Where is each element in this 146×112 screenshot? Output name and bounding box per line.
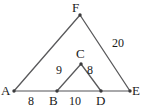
edge-F-E <box>80 15 130 91</box>
geometry-figure: A B C D E F 8 10 9 8 20 <box>0 0 146 112</box>
measure-label-BC: 9 <box>56 64 62 76</box>
vertex-marker-A <box>12 89 15 92</box>
vertex-markers <box>12 13 131 92</box>
edge-A-F <box>14 15 80 91</box>
outer-triangle-AFE <box>14 15 130 91</box>
measure-label-BD: 10 <box>69 95 81 107</box>
vertex-marker-C <box>79 62 82 65</box>
vertex-label-D: D <box>96 94 105 107</box>
vertex-label-F: F <box>72 1 79 14</box>
vertex-label-E: E <box>132 84 140 97</box>
vertex-label-B: B <box>49 94 58 107</box>
measure-label-CD: 8 <box>87 64 93 76</box>
measure-label-AB: 8 <box>28 95 34 107</box>
measure-label-FE: 20 <box>112 37 124 49</box>
vertex-label-C: C <box>76 47 85 60</box>
vertex-label-A: A <box>1 84 10 97</box>
inner-triangle-BCD <box>57 64 101 91</box>
